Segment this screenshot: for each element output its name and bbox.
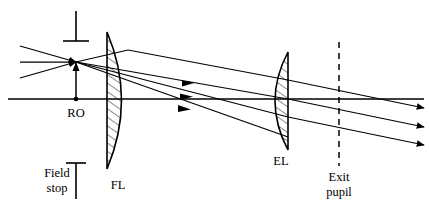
- outgoing-ray-bundle: [288, 80, 424, 148]
- label-field-stop-line2: stop: [47, 181, 68, 195]
- field-stop-marker-top: [63, 11, 89, 41]
- label-field-stop-line1: Field: [44, 166, 70, 180]
- optics-canvas: RO FL EL Field stop Exit pupil: [0, 0, 429, 208]
- incoming-ray-bundle: [20, 46, 76, 78]
- label-el: EL: [273, 154, 288, 168]
- incoming-ray-upper: [20, 46, 76, 62]
- label-fl: FL: [111, 178, 126, 192]
- outgoing-ray-lower: [288, 117, 424, 145]
- reference-object-arrow: [74, 63, 79, 101]
- label-exit-pupil-line1: Exit: [329, 170, 350, 184]
- eye-lens: [275, 52, 288, 150]
- label-exit-pupil-line2: pupil: [326, 185, 352, 199]
- incoming-ray-lower: [20, 62, 76, 78]
- ray-arrowhead-lower: [178, 105, 191, 112]
- label-ro: RO: [67, 106, 84, 120]
- optical-ray-diagram: RO FL EL Field stop Exit pupil: [0, 0, 429, 208]
